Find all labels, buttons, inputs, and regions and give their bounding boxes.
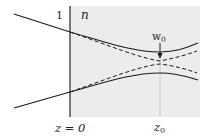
- waist-label-sub: 0: [161, 35, 166, 44]
- left-index-label: 1: [56, 9, 63, 22]
- medium-region: [70, 6, 200, 117]
- interface-position-label: z = 0: [54, 121, 85, 135]
- waist-position-sub: 0: [160, 126, 165, 135]
- waist-position-label: z0: [153, 120, 165, 135]
- waist-label-main: w: [152, 30, 161, 42]
- right-index-label: n: [81, 8, 89, 22]
- beam-diagram: 1 n w0 z = 0 z0: [0, 0, 215, 140]
